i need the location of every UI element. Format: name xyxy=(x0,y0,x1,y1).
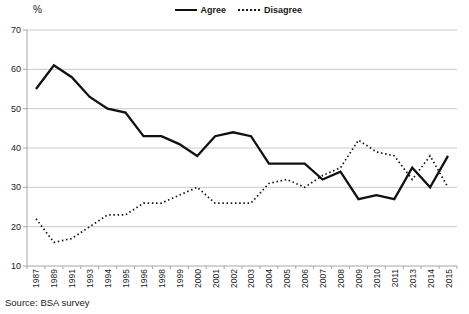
legend-item-disagree: Disagree xyxy=(238,5,302,15)
x-tick-label: 2010 xyxy=(372,269,382,288)
x-tick-label: 2011 xyxy=(390,269,400,288)
legend-label-agree: Agree xyxy=(201,5,227,15)
x-tick-label: 2014 xyxy=(426,269,436,288)
x-tick-label: 2005 xyxy=(282,269,292,288)
y-tick-label: 70 xyxy=(11,25,21,35)
x-tick-label: 1994 xyxy=(103,269,113,288)
x-tick-label: 1998 xyxy=(157,269,167,288)
x-tick-label: 2006 xyxy=(300,269,310,288)
x-tick-label: 1991 xyxy=(67,269,77,288)
y-axis-unit-label: % xyxy=(33,4,42,15)
y-tick-label: 50 xyxy=(11,104,21,114)
legend: Agree Disagree xyxy=(175,5,303,15)
x-tick-label: 2004 xyxy=(264,269,274,288)
y-tick-label: 30 xyxy=(11,182,21,192)
line-chart: 1020304050607019871989199119931994199519… xyxy=(0,0,469,296)
x-tick-label: 2001 xyxy=(211,269,221,288)
x-tick-label: 1999 xyxy=(175,269,185,288)
legend-label-disagree: Disagree xyxy=(264,5,302,15)
x-tick-label: 2015 xyxy=(444,269,454,288)
x-tick-label: 2008 xyxy=(336,269,346,288)
source-note: Source: BSA survey xyxy=(5,297,89,308)
x-tick-label: 1996 xyxy=(139,269,149,288)
x-tick-label: 1989 xyxy=(49,269,59,288)
x-tick-label: 2013 xyxy=(408,269,418,288)
x-tick-label: 2002 xyxy=(229,269,239,288)
x-tick-label: 2000 xyxy=(193,269,203,288)
y-tick-label: 10 xyxy=(11,261,21,271)
x-tick-label: 2009 xyxy=(354,269,364,288)
chart-panel: % Agree Disagree 10203040506070198719891… xyxy=(0,0,469,314)
x-tick-label: 1993 xyxy=(85,269,95,288)
y-tick-label: 20 xyxy=(11,222,21,232)
disagree-line-swatch xyxy=(238,9,260,11)
y-tick-label: 60 xyxy=(11,64,21,74)
agree-line-swatch xyxy=(175,9,197,11)
y-tick-label: 40 xyxy=(11,143,21,153)
x-tick-label: 1987 xyxy=(31,269,41,288)
x-tick-label: 2007 xyxy=(318,269,328,288)
legend-item-agree: Agree xyxy=(175,5,227,15)
x-tick-label: 2003 xyxy=(246,269,256,288)
series-line-agree xyxy=(36,65,448,199)
x-tick-label: 1995 xyxy=(121,269,131,288)
